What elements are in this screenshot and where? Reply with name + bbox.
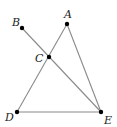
point-label-e: E (103, 114, 112, 127)
segment-ae (67, 24, 101, 112)
point-label-b: B (11, 16, 20, 29)
point-label-c: C (35, 52, 44, 65)
point-e (99, 110, 103, 114)
diagram-svg: ABCDE (0, 0, 117, 127)
point-a (65, 22, 69, 26)
segment-be (22, 28, 101, 112)
point-b (20, 26, 24, 30)
segments-group (17, 24, 101, 112)
point-label-d: D (4, 111, 14, 124)
point-label-a: A (63, 8, 72, 21)
geometry-diagram: ABCDE (0, 0, 117, 127)
labels-group: ABCDE (4, 8, 112, 127)
point-c (47, 55, 51, 59)
point-d (15, 110, 19, 114)
